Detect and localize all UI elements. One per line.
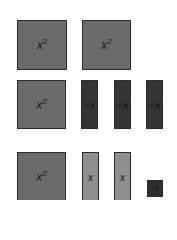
tile-label: x: [88, 171, 94, 183]
tile-label: −x: [149, 99, 161, 111]
negative-x-tile: −x: [81, 80, 98, 129]
tile-label: −x: [84, 99, 96, 111]
tile-label: −x: [117, 99, 129, 111]
tile-label: x2: [36, 98, 46, 112]
tile-label: x: [120, 171, 126, 183]
positive-x-tile: x: [82, 152, 99, 200]
x-squared-tile: x2: [82, 20, 131, 70]
negative-one-tile: −1: [147, 180, 163, 197]
tile-label: −1: [150, 184, 159, 193]
positive-x-tile: x: [114, 152, 131, 200]
negative-x-tile: −x: [114, 80, 131, 129]
tile-label: x2: [37, 38, 47, 52]
x-squared-tile: x2: [17, 80, 66, 129]
x-squared-tile: x2: [17, 152, 66, 200]
negative-x-tile: −x: [146, 80, 163, 129]
tile-label: x2: [101, 38, 111, 52]
tile-label: x2: [36, 170, 46, 184]
x-squared-tile: x2: [17, 20, 67, 70]
